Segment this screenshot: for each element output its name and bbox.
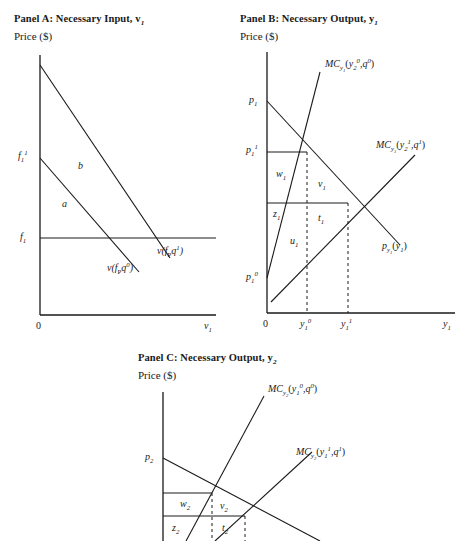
panel-c-mc-q0-mc: MC: [268, 383, 283, 394]
panel-c-region-w2-sub: 2: [187, 504, 190, 511]
panel-c-region-v2-label: v2: [220, 500, 228, 511]
panel-c-region-w2-label: w2: [180, 498, 190, 509]
panel-c-mc-q1-line: [215, 452, 312, 541]
panel-c-plot: [0, 0, 463, 541]
panel-c-ytick-p2: p2: [145, 451, 153, 462]
panel-c-region-w2-base: w: [180, 498, 187, 509]
panel-c-mc-q1-mc: MC: [296, 446, 311, 457]
panel-c-mc-q1-mcsub-sub: 2: [314, 456, 316, 461]
panel-c-mc-q0-line: [186, 396, 264, 541]
panel-c-region-z2-label: z2: [172, 522, 179, 533]
panel-c-mc-q0-arg1-sub: 1: [296, 389, 299, 396]
panel-c-region-v2-sub: 2: [224, 506, 227, 513]
panel-c-ytick-p2-sub: 2: [150, 457, 153, 464]
panel-c-mc-q1-arg1-sub: 1: [324, 452, 327, 459]
panel-c-mc-q1-label: MCy2(y11,q1): [296, 446, 345, 459]
panel-c-mc-q0-label: MCy2(y10,q0): [268, 383, 317, 396]
panel-c-region-z2-sub: 2: [176, 528, 179, 535]
panel-c-region-t2-label: t2: [222, 522, 228, 533]
panel-c-region-t2-sub: 2: [225, 528, 228, 535]
panel-c-mc-q0-mcsub-sub: 2: [286, 393, 288, 398]
